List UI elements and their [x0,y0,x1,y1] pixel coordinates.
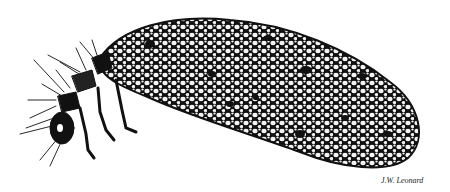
larval-case [100,19,419,168]
artist-signature: J.W. Leonard [381,176,423,185]
larva-illustration [0,0,450,192]
